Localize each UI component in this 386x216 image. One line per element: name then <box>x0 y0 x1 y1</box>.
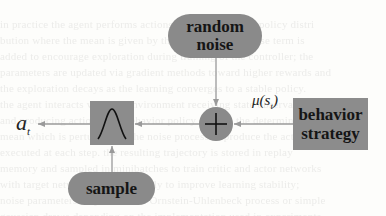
behavior-strategy-node: behavior strategy <box>293 98 368 150</box>
behavior-strategy-line2: strategy <box>301 124 360 143</box>
random-noise-line2: noise <box>197 36 234 54</box>
sum-node <box>199 107 233 141</box>
output-action-label: at <box>16 110 30 137</box>
plus-icon <box>199 107 233 141</box>
sample-node: sample <box>68 172 155 205</box>
bell-curve-icon <box>90 101 134 145</box>
gaussian-distribution-node <box>90 101 134 145</box>
output-subscript: t <box>27 125 30 137</box>
mean-label: μ(st) <box>252 92 278 111</box>
behavior-strategy-line1: behavior <box>298 105 362 124</box>
random-noise-node: random noise <box>168 14 262 58</box>
output-base: a <box>16 110 27 135</box>
mean-prefix: μ(s <box>252 92 270 108</box>
sample-label: sample <box>86 179 137 199</box>
mean-suffix: ) <box>273 92 278 108</box>
random-noise-line1: random <box>186 18 244 36</box>
